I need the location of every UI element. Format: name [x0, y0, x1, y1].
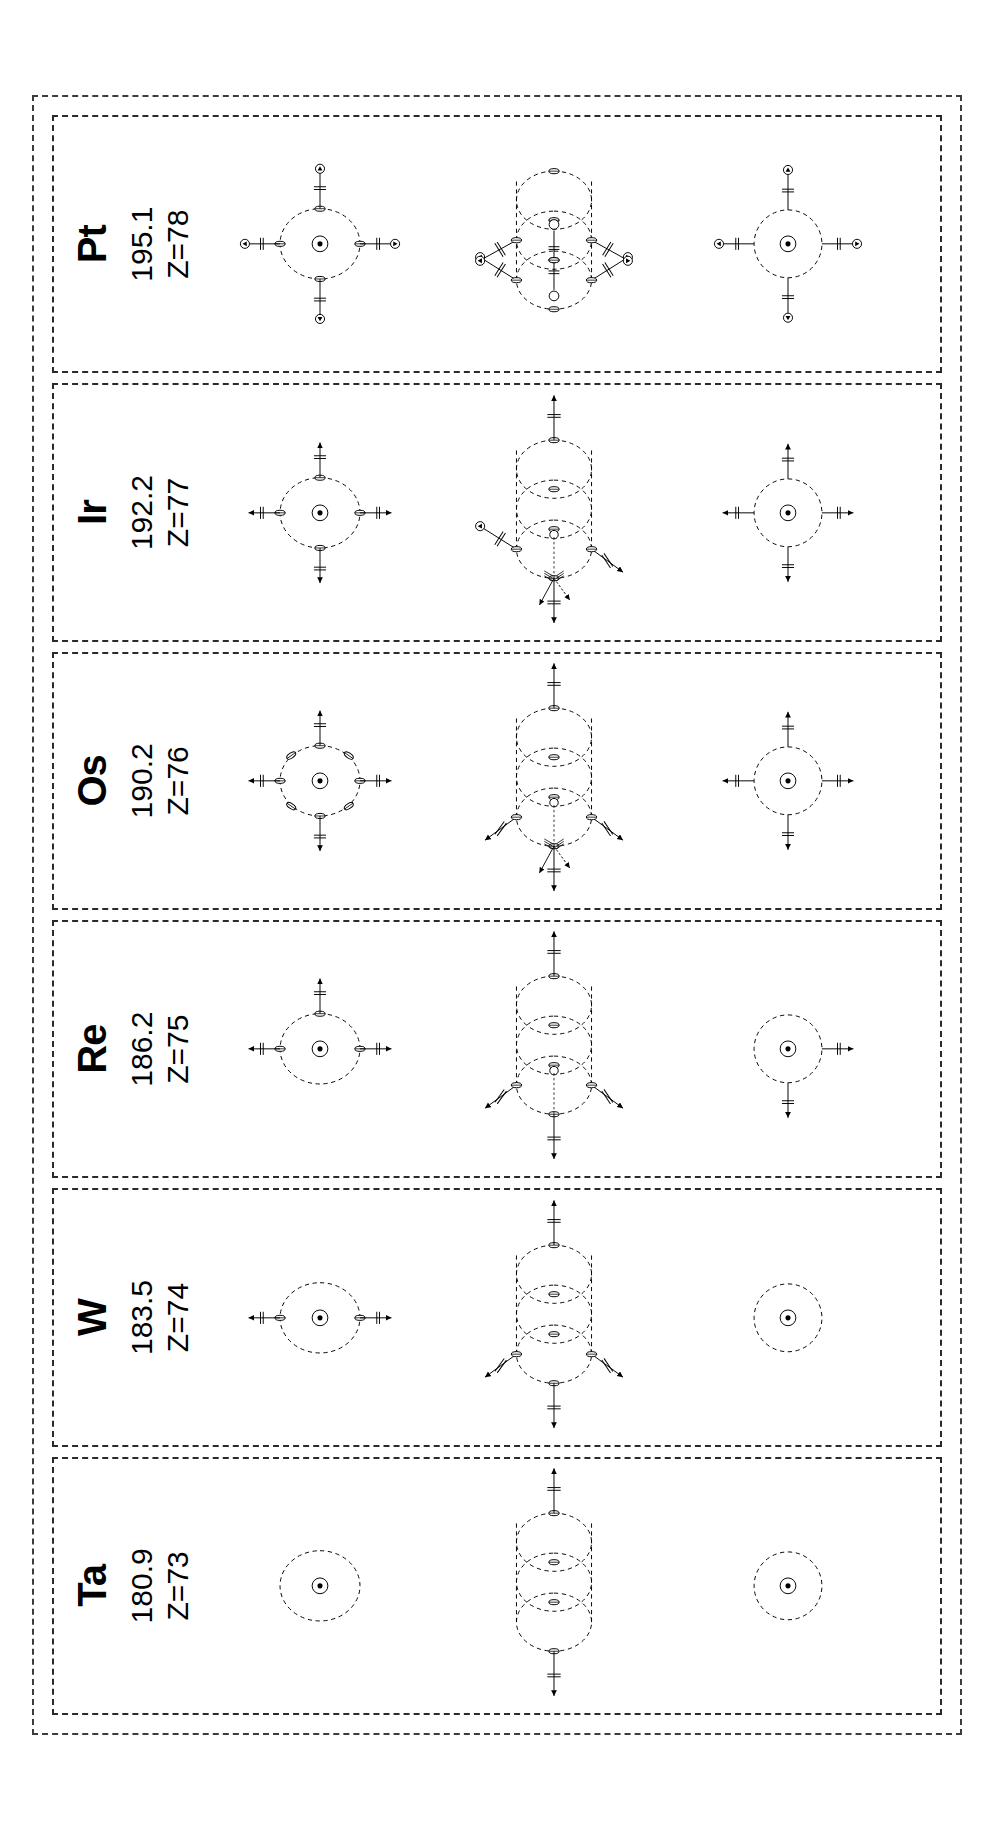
element-symbol: Ir: [72, 500, 112, 525]
atomic-mass: 192.2: [126, 474, 158, 549]
diagram-a-ta: [204, 1458, 436, 1712]
atomic-mass: 195.1: [126, 206, 158, 281]
element-symbol: Ta: [72, 1564, 112, 1606]
diagram-slot-a-re: [204, 922, 436, 1176]
diagram-slot-c-re: [672, 922, 904, 1176]
diagram-b-re: [438, 922, 670, 1176]
atomic-number: Z=75: [162, 1014, 194, 1083]
element-panel-ir[interactable]: Ir192.2Z=77: [52, 383, 942, 641]
diagram-row: [204, 653, 904, 907]
diagram-a-ir: [204, 385, 436, 639]
atomic-mass: 190.2: [126, 743, 158, 818]
diagram-row: [204, 117, 904, 371]
diagram-b-pt: [438, 117, 670, 371]
element-panel-pt[interactable]: Pt195.1Z=78: [52, 115, 942, 373]
diagram-a-os: [204, 653, 436, 907]
atomic-mass: 186.2: [126, 1011, 158, 1086]
diagram-b-w: [438, 1190, 670, 1444]
atomic-number: Z=74: [162, 1282, 194, 1351]
atomic-mass: 183.5: [126, 1279, 158, 1354]
diagram-b-ta: [438, 1458, 670, 1712]
diagram-slot-b-ta: [438, 1458, 670, 1712]
diagram-c-ta: [672, 1458, 904, 1712]
diagram-c-w: [672, 1190, 904, 1444]
diagram-c-ir: [672, 385, 904, 639]
element-panel-ta[interactable]: Ta180.9Z=73: [52, 1456, 942, 1714]
element-symbol: W: [72, 1299, 112, 1336]
element-panel-os[interactable]: Os190.2Z=76: [52, 651, 942, 909]
diagram-c-pt: [672, 117, 904, 371]
diagram-slot-b-re: [438, 922, 670, 1176]
atomic-number: Z=77: [162, 477, 194, 546]
element-panel-w[interactable]: W183.5Z=74: [52, 1188, 942, 1446]
rotated-figure-wrapper: Ta180.9Z=73W183.5Z=74Re186.2Z=75Os190.2Z…: [32, 95, 962, 1735]
diagram-slot-b-os: [438, 653, 670, 907]
atomic-mass: 180.9: [126, 1548, 158, 1623]
diagram-slot-a-ta: [204, 1458, 436, 1712]
diagram-row: [204, 385, 904, 639]
atomic-number: Z=73: [162, 1551, 194, 1620]
diagram-c-os: [672, 653, 904, 907]
diagram-b-os: [438, 653, 670, 907]
diagram-slot-c-ir: [672, 385, 904, 639]
diagram-slot-b-pt: [438, 117, 670, 371]
diagram-slot-a-ir: [204, 385, 436, 639]
diagram-c-re: [672, 922, 904, 1176]
element-symbol: Re: [72, 1024, 112, 1073]
diagram-row: [204, 1458, 904, 1712]
diagram-a-w: [204, 1190, 436, 1444]
diagram-slot-a-w: [204, 1190, 436, 1444]
atomic-number: Z=78: [162, 209, 194, 278]
diagram-a-pt: [204, 117, 436, 371]
diagram-slot-c-w: [672, 1190, 904, 1444]
element-panel-strip: Ta180.9Z=73W183.5Z=74Re186.2Z=75Os190.2Z…: [52, 115, 942, 1715]
diagram-slot-b-w: [438, 1190, 670, 1444]
diagram-row: [204, 1190, 904, 1444]
element-panel-re[interactable]: Re186.2Z=75: [52, 920, 942, 1178]
diagram-slot-a-os: [204, 653, 436, 907]
element-symbol: Os: [72, 755, 112, 806]
diagram-slot-c-ta: [672, 1458, 904, 1712]
diagram-b-ir: [438, 385, 670, 639]
element-symbol: Pt: [72, 225, 112, 263]
diagram-slot-c-os: [672, 653, 904, 907]
diagram-slot-c-pt: [672, 117, 904, 371]
diagram-slot-a-pt: [204, 117, 436, 371]
diagram-a-re: [204, 922, 436, 1176]
diagram-slot-b-ir: [438, 385, 670, 639]
diagram-row: [204, 922, 904, 1176]
atomic-number: Z=76: [162, 746, 194, 815]
